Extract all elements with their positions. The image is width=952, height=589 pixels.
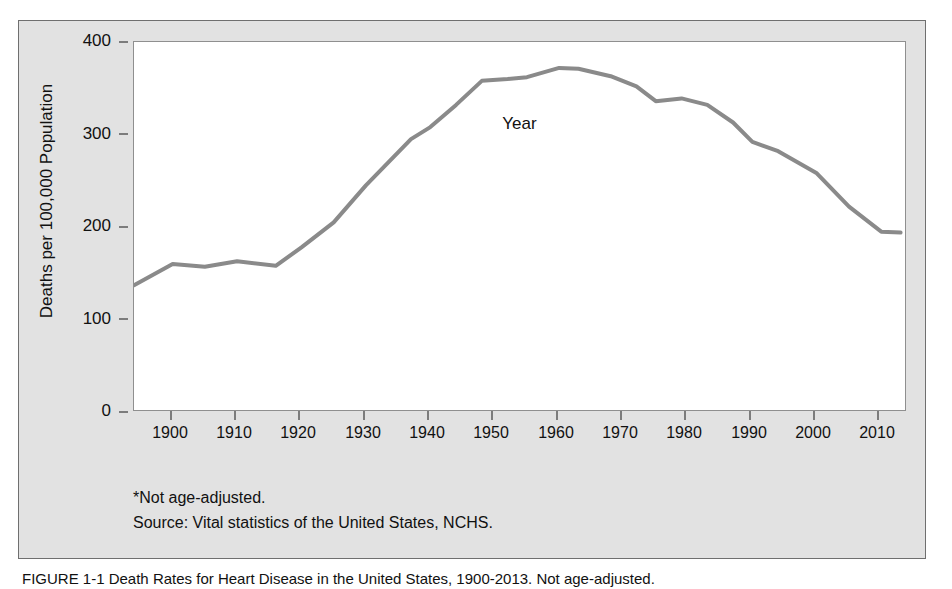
x-tick-label-1980: 1980 <box>654 425 714 441</box>
x-tick-label-1990: 1990 <box>719 425 779 441</box>
x-tick-label-2000: 2000 <box>783 425 843 441</box>
figure-caption: FIGURE 1-1 Death Rates for Heart Disease… <box>22 570 932 587</box>
y-tick-label-400: 400 <box>59 32 111 49</box>
data-line-chart <box>134 42 907 412</box>
plot-area <box>133 41 906 411</box>
footnote-source: Source: Vital statistics of the United S… <box>133 511 493 536</box>
x-tick-mark-1930 <box>363 411 365 420</box>
y-tick-mark-300 <box>119 133 128 135</box>
y-axis-title: Deaths per 100,000 Population <box>37 1 57 401</box>
footnote-not-age-adjusted: *Not age-adjusted. <box>133 486 493 511</box>
y-tick-label-200: 200 <box>59 217 111 234</box>
x-axis-title: Year <box>133 114 906 134</box>
x-tick-label-1930: 1930 <box>333 425 393 441</box>
y-tick-mark-100 <box>119 318 128 320</box>
x-tick-mark-2010 <box>877 411 879 420</box>
y-tick-mark-400 <box>119 41 128 43</box>
x-tick-label-1950: 1950 <box>461 425 521 441</box>
x-tick-mark-1960 <box>556 411 558 420</box>
x-tick-mark-2000 <box>813 411 815 420</box>
y-tick-label-100: 100 <box>59 310 111 327</box>
figure-root: Deaths per 100,000 Population 400 300 20… <box>0 0 952 589</box>
x-tick-label-1960: 1960 <box>526 425 586 441</box>
x-tick-label-1910: 1910 <box>204 425 264 441</box>
figure-panel: Deaths per 100,000 Population 400 300 20… <box>18 20 926 559</box>
x-tick-label-2010: 2010 <box>847 425 907 441</box>
x-tick-mark-1990 <box>749 411 751 420</box>
y-tick-mark-200 <box>119 226 128 228</box>
x-tick-mark-1910 <box>234 411 236 420</box>
x-tick-mark-1940 <box>427 411 429 420</box>
x-tick-mark-1950 <box>491 411 493 420</box>
x-tick-mark-1900 <box>170 411 172 420</box>
x-tick-mark-1980 <box>684 411 686 420</box>
y-tick-label-300: 300 <box>59 125 111 142</box>
x-tick-label-1920: 1920 <box>268 425 328 441</box>
x-tick-mark-1970 <box>620 411 622 420</box>
y-tick-mark-0 <box>119 411 128 413</box>
series-line-heart-disease <box>134 68 901 285</box>
footnotes-block: *Not age-adjusted. Source: Vital statist… <box>133 486 493 536</box>
x-tick-label-1970: 1970 <box>590 425 650 441</box>
x-tick-mark-1920 <box>298 411 300 420</box>
y-tick-label-0: 0 <box>59 402 111 419</box>
x-tick-label-1900: 1900 <box>140 425 200 441</box>
x-tick-label-1940: 1940 <box>397 425 457 441</box>
